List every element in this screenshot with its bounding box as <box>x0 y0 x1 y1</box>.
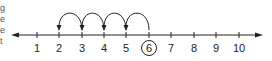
tick-label: 10 <box>233 42 245 54</box>
down-arrow-icon <box>124 25 129 31</box>
tick-label: 3 <box>79 42 85 54</box>
number-line-diagram: 1 2 3 4 5 6 7 8 9 10 <box>0 0 272 61</box>
hop-arc-5-4 <box>104 13 126 30</box>
down-arrow-icon <box>57 25 62 31</box>
right-arrow-icon <box>255 33 263 38</box>
tick-label: 7 <box>168 42 174 54</box>
left-arrow-icon <box>11 33 19 38</box>
hop-arc-4-3 <box>82 13 104 30</box>
tick-label: 1 <box>34 42 40 54</box>
tick-label: 4 <box>101 42 107 54</box>
number-line <box>11 33 263 38</box>
down-arrow-icon <box>80 25 85 31</box>
hop-arrowheads <box>57 25 129 31</box>
hop-arc-6-5 <box>126 13 149 30</box>
tick-label-circled: 6 <box>146 42 152 54</box>
tick-label: 9 <box>213 42 219 54</box>
tick-label: 5 <box>123 42 129 54</box>
tick-labels: 1 2 3 4 5 6 7 8 9 10 <box>34 42 245 54</box>
tick-label: 2 <box>56 42 62 54</box>
hop-arc-3-2 <box>59 13 82 30</box>
tick-label: 8 <box>191 42 197 54</box>
down-arrow-icon <box>102 25 107 31</box>
